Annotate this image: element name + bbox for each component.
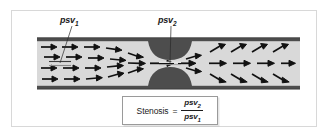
label-psv2-text: psv xyxy=(158,15,173,25)
label-psv1-text: psv xyxy=(60,15,75,25)
formula-numerator-text: psv xyxy=(184,98,197,107)
label-psv2-subscript: 2 xyxy=(173,20,176,27)
label-psv2: psv2 xyxy=(158,15,176,27)
vessel-wall-bottom xyxy=(37,86,300,89)
formula-fraction: psv2 psv1 xyxy=(181,99,203,122)
figure-root: psv1 psv2 Stenosis = psv2 psv1 xyxy=(0,0,336,140)
formula-lhs-label: Stenosis xyxy=(137,106,169,116)
formula-denominator-subscript: 1 xyxy=(197,116,200,122)
formula-denominator: psv1 xyxy=(183,113,201,123)
label-psv1-subscript: 1 xyxy=(75,20,78,27)
formula-numerator-subscript: 2 xyxy=(197,103,200,109)
formula-row: Stenosis = psv2 psv1 xyxy=(137,99,204,122)
formula-denominator-text: psv xyxy=(184,112,197,121)
formula-equals-sign: = xyxy=(171,106,178,116)
formula-numerator: psv2 xyxy=(183,99,201,109)
label-psv1: psv1 xyxy=(60,15,78,27)
formula-box: Stenosis = psv2 psv1 xyxy=(122,96,218,125)
vessel-wall-top xyxy=(37,38,300,41)
